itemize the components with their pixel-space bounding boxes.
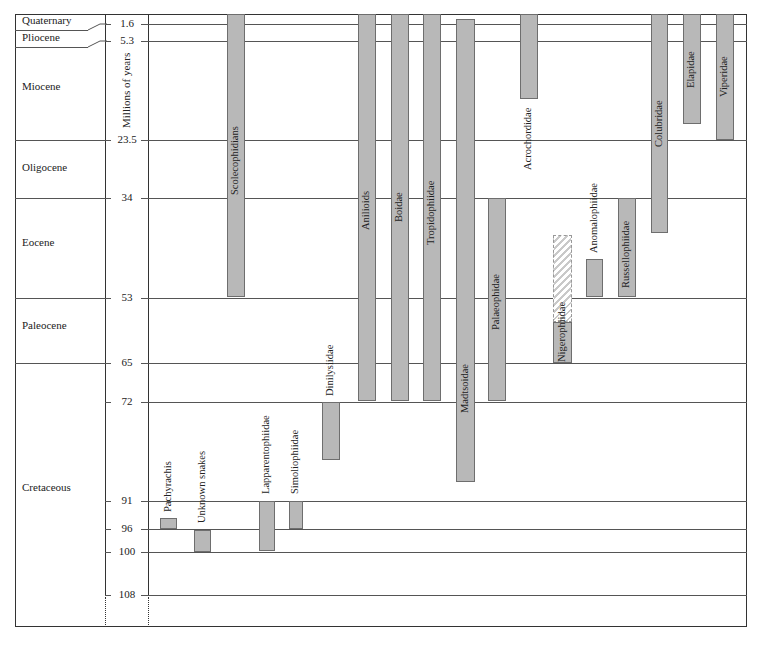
range-bar-label: Nigerophiidae	[556, 302, 567, 362]
gridline	[141, 595, 747, 596]
gridline	[141, 552, 747, 553]
epoch-boundary-paleocene	[15, 363, 111, 364]
epoch-column-divider-dotted	[105, 597, 106, 627]
tick-mark	[105, 552, 111, 553]
range-bar	[520, 14, 538, 99]
epoch-label: Cretaceous	[22, 481, 71, 493]
tick-label: 5.3	[107, 34, 147, 46]
epoch-label: Paleocene	[22, 319, 67, 331]
tick-label: 23.5	[107, 133, 147, 145]
epoch-column-divider	[105, 14, 106, 595]
axis-title: Millions of years	[120, 53, 132, 128]
range-bar	[586, 259, 603, 297]
epoch-label: Oligocene	[22, 161, 67, 173]
range-bar-label: Tropidophiidae	[425, 181, 436, 245]
tick-mark	[105, 402, 111, 403]
tick-mark	[105, 41, 111, 42]
tick-label: 91	[107, 494, 147, 506]
range-bar-label: Anilioids	[360, 191, 371, 230]
tick-label: 53	[107, 291, 147, 303]
epoch-label: Pliocene	[22, 31, 60, 43]
tick-mark	[105, 529, 111, 530]
tick-label: 34	[107, 191, 147, 203]
range-bar	[322, 402, 340, 460]
range-bar-label: Boidae	[393, 192, 404, 222]
epoch-boundary-eocene	[15, 298, 111, 299]
tick-label: 108	[107, 588, 147, 600]
range-bar-label: Acrochordidae	[522, 108, 533, 170]
tick-label: 65	[107, 356, 147, 368]
epoch-boundary-oligocene	[15, 198, 111, 199]
epoch-label: Eocene	[22, 236, 54, 248]
range-bar-label: Russellophiidae	[620, 221, 631, 288]
tick-mark	[105, 363, 111, 364]
tick-label: 72	[107, 395, 147, 407]
range-bar-label: Elapidae	[685, 51, 696, 88]
range-bar	[160, 518, 177, 529]
range-bar-label: Scolecophidians	[229, 126, 240, 195]
range-bar-label: Anomalophiidae	[588, 183, 599, 253]
range-bar	[289, 501, 303, 529]
gridline	[141, 501, 747, 502]
tick-mark	[105, 501, 111, 502]
tick-mark	[105, 24, 111, 25]
range-bar-label: Colubridae	[653, 100, 664, 147]
range-bar	[194, 530, 211, 552]
tick-label: 1.6	[107, 17, 147, 29]
tick-mark	[105, 198, 111, 199]
range-bar-label: Simoliophiidae	[289, 430, 300, 494]
range-bar-label: Palaeophidae	[490, 274, 501, 330]
epoch-boundary-miocene	[15, 140, 111, 141]
tick-mark	[105, 595, 111, 596]
range-bar-label: Madtsoidae	[459, 364, 470, 413]
range-bar-label: Pachyrachis	[162, 461, 173, 512]
range-bar-label: Lapparentophiidae	[260, 415, 271, 494]
epoch-label: Quaternary	[22, 14, 71, 26]
epoch-boundary-pliocene	[15, 47, 88, 48]
gridline	[141, 363, 747, 364]
tick-label: 96	[107, 522, 147, 534]
tick-label: 100	[107, 545, 147, 557]
range-bar	[259, 501, 275, 551]
gridline	[141, 402, 747, 403]
range-bar-label: Dinilysiidae	[324, 345, 335, 396]
range-bar-label: Unknown snakes	[196, 451, 207, 523]
axis-column-divider-dotted	[148, 597, 149, 627]
tick-mark	[105, 140, 111, 141]
axis-column-divider	[148, 14, 149, 595]
gridline	[141, 298, 747, 299]
tick-mark	[105, 298, 111, 299]
epoch-label: Miocene	[22, 80, 60, 92]
range-bar-label: Viperidae	[718, 56, 729, 97]
gridline	[141, 529, 747, 530]
